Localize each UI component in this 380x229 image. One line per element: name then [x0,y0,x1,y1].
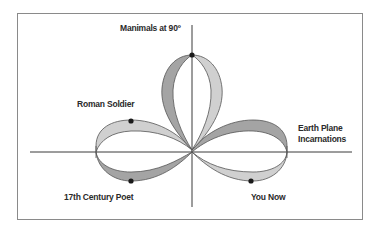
label-you-now: You Now [251,192,285,203]
roman-soldier-node [128,118,133,123]
trefoil-diagram [0,0,380,229]
label-17th-century-poet: 17th Century Poet [64,192,133,203]
poet-node [128,178,133,183]
label-manimals: Manimals at 90º [120,23,181,34]
you-now-node [248,178,253,183]
label-roman-soldier: Roman Soldier [77,99,134,110]
label-earth-plane: Earth Plane [298,123,343,134]
manimals-node [189,52,194,57]
label-incarnations: Incarnations [298,134,346,145]
